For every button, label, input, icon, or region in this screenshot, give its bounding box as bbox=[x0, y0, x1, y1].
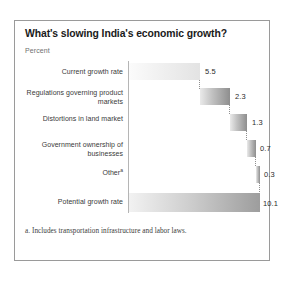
category-label-text: Other bbox=[102, 169, 120, 176]
footnote-marker: a bbox=[120, 167, 123, 173]
bar-value-label: 5.5 bbox=[205, 67, 216, 76]
chart-row: Current growth rate 5.5 bbox=[25, 61, 263, 83]
chart-footnote: a. Includes transportation infrastructur… bbox=[25, 227, 261, 235]
chart-row: Distortions in land market 1.3 bbox=[25, 111, 263, 137]
bar-current-growth-rate bbox=[129, 63, 200, 80]
bar-value-label: 10.1 bbox=[263, 199, 278, 208]
category-label: Othera bbox=[25, 169, 123, 178]
bar-value-label: 2.3 bbox=[235, 92, 246, 101]
category-label: Distortions in land market bbox=[25, 115, 123, 124]
bar-land-market-distortions bbox=[230, 114, 247, 131]
category-label: Potential growth rate bbox=[25, 198, 123, 207]
bar-other bbox=[256, 166, 260, 183]
category-label: Regulations governing product markets bbox=[25, 89, 123, 106]
bar-value-label: 0.7 bbox=[260, 144, 271, 153]
chart-row: Potential growth rate 10.1 bbox=[25, 191, 263, 215]
chart-panel: What's slowing India's economic growth? … bbox=[14, 20, 270, 261]
bar-regulations-product-markets bbox=[200, 88, 230, 105]
bar-value-label: 0.3 bbox=[264, 170, 275, 179]
plot-area: Current growth rate 5.5 Regulations gove… bbox=[25, 61, 263, 216]
chart-title: What's slowing India's economic growth? bbox=[25, 28, 265, 40]
chart-row: Othera 0.3 bbox=[25, 163, 263, 187]
chart-subtitle: Percent bbox=[25, 47, 50, 54]
bar-value-label: 1.3 bbox=[252, 118, 263, 127]
bar-potential-growth-rate bbox=[129, 193, 260, 212]
chart-row: Regulations governing product markets 2.… bbox=[25, 85, 263, 111]
category-label: Government ownership of businesses bbox=[25, 141, 123, 158]
category-label: Current growth rate bbox=[25, 68, 123, 77]
bar-government-ownership bbox=[247, 140, 256, 157]
chart-row: Government ownership of businesses 0.7 bbox=[25, 137, 263, 163]
